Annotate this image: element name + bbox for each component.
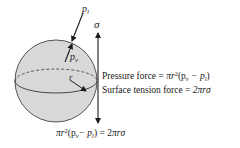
radius-label: r — [69, 72, 73, 82]
liquid-pressure-arrow — [72, 13, 83, 41]
bubble-force-diagram: r pl pv σ Pressure force = πr2(pv − pl) … — [0, 0, 240, 148]
surface-tension-force-equation: Surface tension force = 2πrσ — [102, 85, 211, 95]
pressure-force-equation: Pressure force = πr2(pv − pl) — [102, 70, 210, 83]
bubble-sphere — [15, 40, 97, 122]
surface-tension-label: σ — [94, 18, 100, 30]
force-balance-equation: πr2(pv− pl) = 2πrσ — [56, 127, 125, 140]
